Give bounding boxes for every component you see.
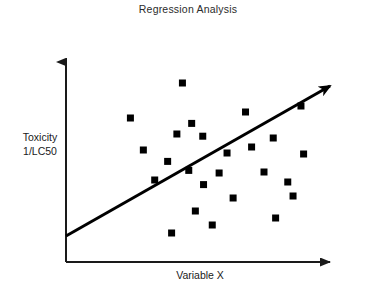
y-axis-label: Toxicity 1/LC50 [8,130,72,158]
data-point [200,181,207,188]
data-point [179,80,186,87]
data-point [284,179,291,186]
data-point [224,150,231,157]
data-point [216,170,223,177]
data-point [242,109,249,116]
data-point [164,158,171,165]
data-point [272,215,279,222]
data-point [261,169,268,176]
data-point [192,208,199,215]
x-axis-label: Variable X [120,269,280,281]
data-point [270,135,277,142]
data-point [185,167,192,174]
data-point [188,120,195,127]
data-point [248,144,255,151]
y-axis-label-line-2: 1/LC50 [8,144,72,158]
data-points-group [127,80,307,237]
data-point [300,151,307,158]
chart-title: Regression Analysis [0,3,376,15]
data-point [140,147,147,154]
data-point [297,103,304,110]
data-point [230,195,237,202]
data-point [168,230,175,237]
data-point [127,115,134,122]
chart-figure: Regression Analysis Toxicity 1/LC50 Vari… [0,0,376,290]
y-axis-label-line-1: Toxicity [8,130,72,144]
data-point [173,131,180,138]
data-point [199,133,206,140]
data-point [209,222,216,229]
data-point [290,193,297,200]
data-point [151,177,158,184]
